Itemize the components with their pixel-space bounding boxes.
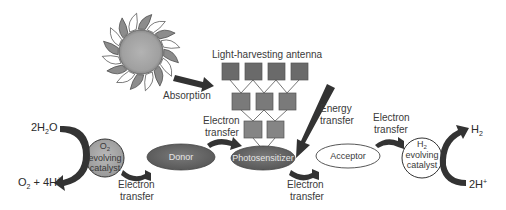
energy-transfer-label-line2: transfer <box>320 115 355 126</box>
sun-ray <box>145 72 153 91</box>
antenna-pigment <box>267 121 284 138</box>
antenna-pigment <box>279 93 296 110</box>
electron-transfer-label-3b: transfer <box>290 191 325 202</box>
electron-transfer-label-2b: transfer <box>120 191 155 202</box>
h2-catalyst-line2: evolving <box>405 150 438 160</box>
photocatalysis-diagram: Absorption Light-harvesting antenna Ener… <box>0 0 506 210</box>
sun-core <box>119 30 163 74</box>
diagram-canvas: Absorption Light-harvesting antenna Ener… <box>0 0 506 210</box>
antenna-pigment <box>222 63 239 80</box>
antenna-connectors <box>230 80 299 151</box>
absorption-label: Absorption <box>163 90 211 101</box>
h2-evolving-catalyst: H2 evolving catalyst <box>402 138 442 178</box>
water-label: 2H2O <box>31 121 58 135</box>
donor-label: Donor <box>169 152 194 162</box>
antenna-label: Light-harvesting antenna <box>212 49 323 60</box>
antenna-pigment <box>291 63 308 80</box>
oxygen-protons-label: O2 + 4H+ <box>18 176 61 190</box>
energy-transfer-label-line1: Energy <box>320 103 352 114</box>
o2-catalyst-line3: catalyst <box>90 163 121 173</box>
antenna-pigment <box>244 121 262 138</box>
electron-transfer-label-4b: transfer <box>374 124 409 135</box>
sun-ray <box>119 18 128 38</box>
sun-ray <box>154 66 163 86</box>
o2-evolving-catalyst: O2 evolving catalyst <box>86 139 124 177</box>
sun-ray <box>155 30 175 39</box>
sun-ray <box>102 56 121 64</box>
sun-ray <box>107 65 127 74</box>
electron-transfer-arrow-donor-to-ps <box>207 137 242 150</box>
sun-ray <box>161 40 180 48</box>
antenna-pigment <box>256 93 273 110</box>
protons-label: 2H+ <box>469 178 487 190</box>
sun-icon <box>102 13 180 91</box>
h2-catalyst-line3: catalyst <box>407 160 438 170</box>
electron-transfer-label-4a: Electron <box>373 112 410 123</box>
antenna-pigment <box>232 93 250 110</box>
electron-transfer-label-3a: Electron <box>287 179 324 190</box>
proton-reduction-arrow <box>440 125 469 186</box>
sun-ray <box>129 13 137 32</box>
electron-transfer-label-1b: transfer <box>205 127 240 138</box>
electron-transfer-label-1a: Electron <box>203 115 240 126</box>
acceptor-label: Acceptor <box>330 151 366 161</box>
hydrogen-label: H2 <box>471 123 483 137</box>
electron-transfer-label-2a: Electron <box>118 179 155 190</box>
photosensitizer-label: Photosensitizer <box>232 153 294 163</box>
electron-transfer-arrow-acceptor-to-h2cat <box>375 137 404 149</box>
antenna-pigment <box>268 63 285 80</box>
antenna-pigment <box>245 63 262 80</box>
o2-catalyst-line2: evolving <box>88 153 121 163</box>
